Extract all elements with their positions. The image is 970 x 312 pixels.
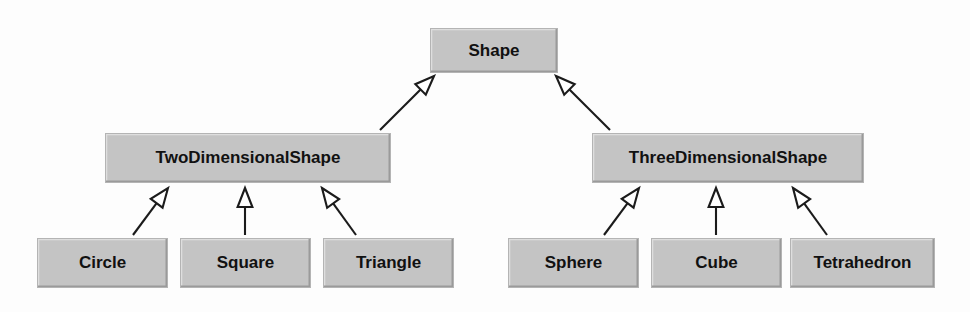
- class-name-label-triangle: Triangle: [356, 253, 421, 272]
- generalization-line: [133, 203, 157, 235]
- generalization-line: [604, 203, 628, 235]
- class-name-label-two-dimensional-shape: TwoDimensionalShape: [156, 148, 341, 167]
- hollow-triangle-arrowhead-icon: [622, 188, 639, 208]
- class-name-label-tetrahedron: Tetrahedron: [814, 253, 912, 272]
- hollow-triangle-arrowhead-icon: [238, 188, 253, 207]
- generalization-line: [380, 89, 421, 130]
- generalization-line: [804, 203, 827, 235]
- class-box-square[interactable]: Square: [180, 238, 311, 288]
- class-box-layer: ShapeTwoDimensionalShapeThreeDimensional…: [37, 28, 935, 288]
- class-box-three-dimensional-shape[interactable]: ThreeDimensionalShape: [592, 133, 864, 183]
- generalization-line: [569, 89, 610, 130]
- hollow-triangle-arrowhead-icon: [793, 188, 810, 208]
- class-box-cube[interactable]: Cube: [651, 238, 782, 288]
- class-box-sphere[interactable]: Sphere: [508, 238, 639, 288]
- class-box-shape[interactable]: Shape: [430, 28, 558, 73]
- class-name-label-cube: Cube: [695, 253, 738, 272]
- class-name-label-shape: Shape: [468, 41, 519, 60]
- edge-square-to-2d: [238, 188, 253, 235]
- class-name-label-square: Square: [217, 253, 275, 272]
- class-name-label-three-dimensional-shape: ThreeDimensionalShape: [629, 148, 827, 167]
- class-box-circle[interactable]: Circle: [37, 238, 168, 288]
- class-box-tetrahedron[interactable]: Tetrahedron: [790, 238, 935, 288]
- uml-class-diagram: ShapeTwoDimensionalShapeThreeDimensional…: [0, 0, 970, 312]
- edge-3d-to-shape: [556, 76, 610, 130]
- class-box-two-dimensional-shape[interactable]: TwoDimensionalShape: [105, 133, 391, 183]
- edge-triangle-to-2d: [322, 188, 356, 235]
- generalization-line: [333, 203, 356, 235]
- hollow-triangle-arrowhead-icon: [709, 188, 724, 207]
- uml-diagram-canvas: ShapeTwoDimensionalShapeThreeDimensional…: [0, 0, 970, 312]
- class-name-label-sphere: Sphere: [545, 253, 603, 272]
- hollow-triangle-arrowhead-icon: [322, 188, 339, 208]
- edge-2d-to-shape: [380, 76, 434, 130]
- class-name-label-circle: Circle: [79, 253, 126, 272]
- edge-tetra-to-3d: [793, 188, 827, 235]
- edge-circle-to-2d: [133, 188, 168, 235]
- class-box-triangle[interactable]: Triangle: [323, 238, 454, 288]
- edge-sphere-to-3d: [604, 188, 639, 235]
- hollow-triangle-arrowhead-icon: [151, 188, 168, 208]
- edge-cube-to-3d: [709, 188, 724, 235]
